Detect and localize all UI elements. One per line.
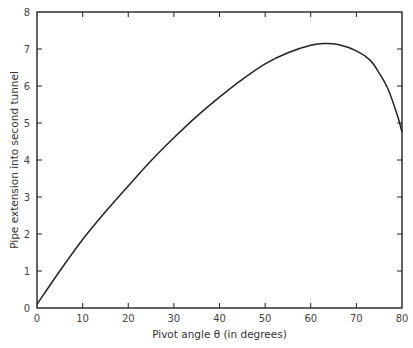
y-tick-label: 7 — [24, 44, 30, 55]
y-tick-label: 0 — [24, 303, 30, 314]
x-tick-label: 80 — [396, 313, 409, 324]
x-tick-label: 30 — [168, 313, 181, 324]
y-tick-label: 1 — [24, 266, 30, 277]
x-axis-tick-labels: 01020304050607080 — [34, 313, 409, 324]
y-axis-title: Pipe extension into second tunnel — [8, 71, 20, 249]
x-tick-label: 0 — [34, 313, 40, 324]
x-tick-label: 60 — [304, 313, 317, 324]
x-tick-label: 20 — [122, 313, 135, 324]
y-tick-label: 8 — [24, 7, 30, 18]
x-tick-label: 10 — [76, 313, 89, 324]
line-chart: 012345678 01020304050607080 Pivot angle … — [0, 0, 413, 348]
axis-ticks — [37, 12, 402, 308]
data-line — [37, 43, 402, 304]
x-tick-label: 40 — [213, 313, 226, 324]
x-axis-title: Pivot angle θ (in degrees) — [152, 328, 287, 340]
y-axis-tick-labels: 012345678 — [24, 7, 30, 314]
y-tick-label: 3 — [24, 192, 30, 203]
y-tick-label: 4 — [24, 155, 30, 166]
plot-frame — [37, 12, 402, 308]
x-tick-label: 70 — [350, 313, 363, 324]
y-tick-label: 5 — [24, 118, 30, 129]
y-tick-label: 6 — [24, 81, 30, 92]
y-tick-label: 2 — [24, 229, 30, 240]
x-tick-label: 50 — [259, 313, 272, 324]
